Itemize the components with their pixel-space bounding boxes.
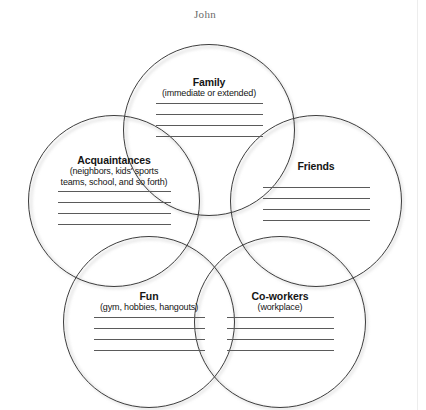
worksheet-page: John Family (immediate or extended) Acqu…: [0, 0, 426, 410]
write-line[interactable]: [156, 125, 263, 126]
write-line[interactable]: [156, 136, 263, 137]
write-line[interactable]: [94, 317, 205, 318]
write-line[interactable]: [156, 114, 263, 115]
write-line[interactable]: [227, 317, 334, 318]
write-line[interactable]: [58, 224, 171, 225]
circle-title-family: Family: [139, 76, 279, 88]
write-lines-fun: [75, 317, 223, 351]
circle-content-friends: Friends: [246, 160, 386, 221]
write-line[interactable]: [156, 103, 263, 104]
write-lines-acquaintances: [33, 191, 195, 225]
write-line[interactable]: [263, 220, 370, 221]
circle-subtitle-acquaintances: (neighbors, kids' sports teams, school, …: [33, 166, 195, 187]
write-line[interactable]: [227, 350, 334, 351]
circle-title-friends: Friends: [246, 160, 386, 172]
circle-content-family: Family (immediate or extended): [139, 76, 279, 137]
write-line[interactable]: [58, 213, 171, 214]
write-line[interactable]: [227, 339, 334, 340]
circle-content-acquaintances: Acquaintances (neighbors, kids' sports t…: [33, 154, 195, 225]
circle-subtitle-fun: (gym, hobbies, hangouts): [75, 302, 223, 313]
write-lines-co-workers: [210, 317, 350, 351]
circle-subtitle-family: (immediate or extended): [139, 88, 279, 99]
page-title: John: [0, 8, 410, 20]
circle-title-acquaintances: Acquaintances: [33, 154, 195, 166]
write-lines-friends: [246, 187, 386, 221]
write-line[interactable]: [263, 187, 370, 188]
write-line[interactable]: [58, 191, 171, 192]
page-edge-line: [417, 0, 418, 410]
circle-content-co-workers: Co-workers (workplace): [210, 290, 350, 351]
circle-subtitle-co-workers: (workplace): [210, 302, 350, 313]
circle-title-fun: Fun: [75, 290, 223, 302]
write-line[interactable]: [58, 202, 171, 203]
circle-title-co-workers: Co-workers: [210, 290, 350, 302]
write-line[interactable]: [263, 209, 370, 210]
write-line[interactable]: [94, 328, 205, 329]
write-line[interactable]: [263, 198, 370, 199]
write-line[interactable]: [94, 350, 205, 351]
write-line[interactable]: [94, 339, 205, 340]
write-lines-family: [139, 103, 279, 137]
circle-content-fun: Fun (gym, hobbies, hangouts): [75, 290, 223, 351]
write-line[interactable]: [227, 328, 334, 329]
